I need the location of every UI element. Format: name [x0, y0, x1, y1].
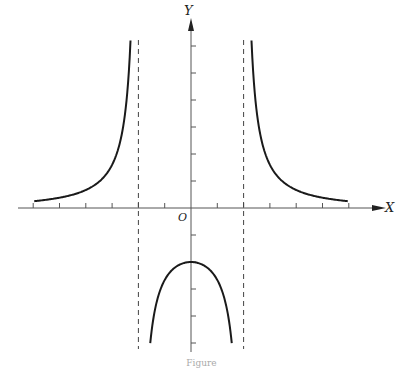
y-axis-label: Y [184, 3, 193, 18]
x-axis-arrow-icon [372, 205, 386, 211]
y-axis-arrow-icon [188, 18, 194, 31]
origin-label: O [178, 211, 187, 224]
left-branch-curve [34, 41, 130, 202]
chart-canvas [0, 0, 403, 373]
axes [18, 18, 386, 352]
figure-caption: Figure [0, 358, 403, 368]
x-axis-label: X [385, 200, 394, 215]
right-branch-curve [251, 41, 347, 202]
